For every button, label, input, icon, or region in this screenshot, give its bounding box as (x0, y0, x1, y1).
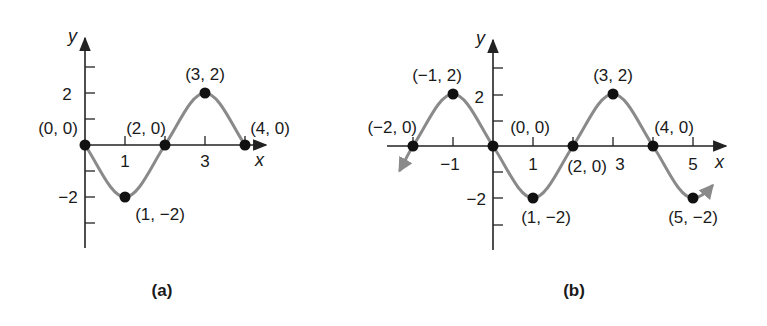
point-label-3-2: (3, 2) (593, 66, 633, 85)
x-tick-label-3: 3 (615, 155, 624, 174)
point-0-0 (80, 140, 91, 151)
graph-b: y x 2 −2 −1 1 3 5 (−2, 0) (−1, 2) (0, 0)… (367, 28, 726, 300)
point-label-5-neg2: (5, −2) (668, 208, 718, 227)
y-axis-label: y (66, 26, 78, 46)
point-label-0-0: (0, 0) (38, 119, 78, 138)
point-2-0 (568, 141, 579, 152)
point-label-1-neg2: (1, −2) (135, 205, 185, 224)
point-neg2-0 (408, 141, 419, 152)
caption-a: (a) (152, 281, 173, 300)
x-tick-label-3: 3 (200, 152, 209, 171)
point-4-0 (648, 141, 659, 152)
point-2-0 (160, 140, 171, 151)
caption-b: (b) (563, 281, 585, 300)
point-label-4-0: (4, 0) (250, 119, 290, 138)
point-label-neg2-0: (−2, 0) (367, 118, 417, 137)
point-label-3-2: (3, 2) (185, 65, 225, 84)
point-1-neg2 (120, 192, 131, 203)
point-3-2 (200, 88, 211, 99)
point-label-0-0: (0, 0) (510, 118, 550, 137)
figure: y x 2 −2 1 3 (0, 0) (2, 0) (3, 2) (4, 0)… (0, 0, 767, 326)
point-neg1-2 (448, 89, 459, 100)
point-label-neg1-2: (−1, 2) (412, 66, 462, 85)
point-label-1-neg2: (1, −2) (521, 208, 571, 227)
x-axis-label: x (254, 150, 265, 170)
x-tick-label-neg1: −1 (440, 155, 459, 174)
y-axis-label: y (474, 28, 486, 48)
graph-a: y x 2 −2 1 3 (0, 0) (2, 0) (3, 2) (4, 0)… (38, 26, 290, 300)
point-label-4-0: (4, 0) (654, 118, 694, 137)
x-tick-label-5: 5 (688, 155, 697, 174)
y-tick-label-2: 2 (62, 85, 71, 104)
point-5-neg2 (688, 193, 699, 204)
x-tick-label-1: 1 (120, 152, 129, 171)
point-label-2-0: (2, 0) (567, 157, 607, 176)
point-3-2 (608, 89, 619, 100)
y-tick-label-neg2: −2 (467, 190, 486, 209)
point-1-neg2 (528, 193, 539, 204)
point-4-0 (240, 140, 251, 151)
y-tick-label-neg2: −2 (58, 188, 77, 207)
point-label-2-0: (2, 0) (126, 119, 166, 138)
x-tick-label-1: 1 (528, 155, 537, 174)
y-tick-label-2: 2 (475, 88, 484, 107)
x-axis-label: x (714, 152, 725, 172)
point-0-0 (488, 141, 499, 152)
